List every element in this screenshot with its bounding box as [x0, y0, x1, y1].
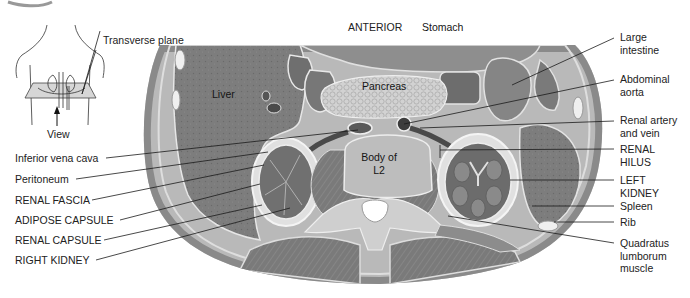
label-adipose-capsule: ADIPOSE CAPSULE	[15, 214, 114, 227]
label-renal-fascia: RENAL FASCIA	[15, 194, 90, 207]
kidney-cross-section-figure: ANTERIOR Transverse plane View Liver Sto…	[0, 0, 690, 298]
transverse-plane-label: Transverse plane	[103, 34, 184, 47]
label-large-intestine: Large intestine	[620, 31, 659, 56]
view-arrow-icon	[54, 106, 60, 126]
label-inferior-vena-cava: Inferior vena cava	[15, 152, 98, 165]
vertebra-label: Body of L2	[354, 151, 404, 176]
label-right-kidney: RIGHT KIDNEY	[15, 254, 89, 267]
label-quadratus-lumborum-muscle: Quadratus lumborum muscle	[620, 237, 669, 275]
inset-torso-diagram	[8, 2, 104, 125]
view-label: View	[47, 128, 70, 141]
label-renal-capsule: RENAL CAPSULE	[15, 234, 102, 247]
anterior-orientation-label: ANTERIOR	[348, 21, 402, 34]
label-peritoneum: Peritoneum	[15, 173, 69, 186]
label-left-kidney: LEFT KIDNEY	[620, 174, 659, 199]
pancreas-label: Pancreas	[362, 80, 406, 93]
label-spleen: Spleen	[620, 200, 653, 213]
label-renal-hilus: RENAL HILUS	[620, 143, 655, 168]
liver-label: Liver	[212, 88, 235, 101]
label-rib: Rib	[620, 216, 636, 229]
label-renal-artery-and-vein: Renal artery and vein	[620, 114, 677, 139]
label-abdominal-aorta: Abdominal aorta	[620, 73, 670, 98]
stomach-label: Stomach	[422, 21, 463, 34]
